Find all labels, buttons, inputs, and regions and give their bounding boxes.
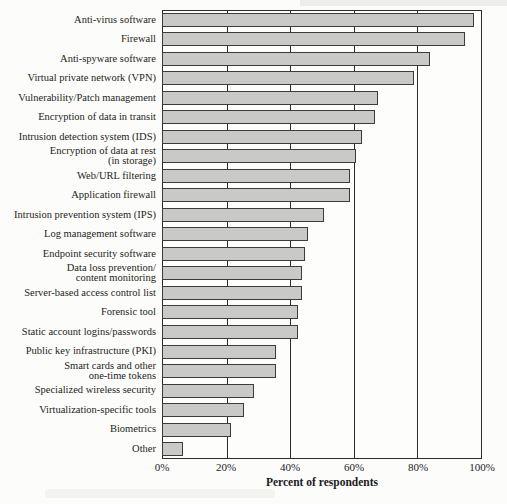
bar-row: Intrusion detection system (IDS): [0, 127, 482, 147]
bar-rows: Anti-virus softwareFirewallAnti-spyware …: [0, 10, 482, 459]
bar-row: Static account logins/passwords: [0, 322, 482, 342]
bar-row: Forensic tool: [0, 303, 482, 323]
bar-track: [162, 361, 482, 381]
bar: [162, 13, 474, 27]
bar: [162, 345, 276, 359]
bar: [162, 32, 465, 46]
category-label: Intrusion prevention system (IPS): [0, 210, 162, 221]
category-label: Server-based access control list: [0, 288, 162, 299]
bar-track: [162, 303, 482, 323]
category-label: Other: [0, 444, 162, 455]
category-label: Virtualization-specific tools: [0, 405, 162, 416]
bar-track: [162, 88, 482, 108]
bar: [162, 149, 356, 163]
bar-track: [162, 322, 482, 342]
bar-row: Smart cards and other one-time tokens: [0, 361, 482, 381]
bar-track: [162, 30, 482, 50]
bar: [162, 247, 305, 261]
bar: [162, 325, 298, 339]
bar: [162, 286, 302, 300]
bar-row: Intrusion prevention system (IPS): [0, 205, 482, 225]
category-label: Vulnerability/Patch management: [0, 93, 162, 104]
bar: [162, 188, 350, 202]
bar-row: Public key infrastructure (PKI): [0, 342, 482, 362]
category-label: Web/URL filtering: [0, 171, 162, 182]
bar-track: [162, 439, 482, 459]
bar: [162, 227, 308, 241]
bar: [162, 130, 362, 144]
bar: [162, 208, 324, 222]
bar-track: [162, 400, 482, 420]
bar-track: [162, 127, 482, 147]
bar-track: [162, 108, 482, 128]
bar-row: Data loss prevention/ content monitoring: [0, 264, 482, 284]
bar-row: Virtualization-specific tools: [0, 400, 482, 420]
x-tick-label: 40%: [280, 461, 300, 474]
bar-row: Application firewall: [0, 186, 482, 206]
bar: [162, 52, 430, 66]
category-label: Smart cards and other one-time tokens: [0, 361, 162, 382]
category-label: Specialized wireless security: [0, 385, 162, 396]
bar-row: Anti-virus software: [0, 10, 482, 30]
bar-row: Firewall: [0, 30, 482, 50]
bar-row: Biometrics: [0, 420, 482, 440]
bar: [162, 442, 183, 456]
bar-row: Log management software: [0, 225, 482, 245]
category-label: Encryption of data in transit: [0, 112, 162, 123]
category-label: Anti-virus software: [0, 15, 162, 26]
bar-track: [162, 147, 482, 167]
x-tick-label: 0%: [155, 461, 170, 474]
category-label: Intrusion detection system (IDS): [0, 132, 162, 143]
x-tick-label: 60%: [344, 461, 364, 474]
bar-track: [162, 10, 482, 30]
category-label: Application firewall: [0, 190, 162, 201]
bar: [162, 305, 298, 319]
bar-row: Server-based access control list: [0, 283, 482, 303]
category-label: Virtual private network (VPN): [0, 73, 162, 84]
bar-track: [162, 244, 482, 264]
bar: [162, 71, 414, 85]
bar: [162, 364, 276, 378]
bar-track: [162, 342, 482, 362]
bar-row: Virtual private network (VPN): [0, 69, 482, 89]
bar-row: Other: [0, 439, 482, 459]
bar-row: Vulnerability/Patch management: [0, 88, 482, 108]
bar-track: [162, 283, 482, 303]
bar-row: Web/URL filtering: [0, 166, 482, 186]
category-label: Firewall: [0, 34, 162, 45]
category-label: Log management software: [0, 229, 162, 240]
bar-track: [162, 225, 482, 245]
bar: [162, 423, 231, 437]
bar-track: [162, 49, 482, 69]
bar-track: [162, 186, 482, 206]
bar-row: Encryption of data at rest (in storage): [0, 147, 482, 167]
bar: [162, 169, 350, 183]
category-label: Forensic tool: [0, 307, 162, 318]
bar: [162, 110, 375, 124]
bar-track: [162, 166, 482, 186]
x-tick-label: 80%: [408, 461, 428, 474]
bar-track: [162, 381, 482, 401]
scan-artifact-top: [300, 0, 507, 6]
bar-row: Anti-spyware software: [0, 49, 482, 69]
x-tick-label: 20%: [216, 461, 236, 474]
bar: [162, 384, 254, 398]
bar-track: [162, 420, 482, 440]
category-label: Encryption of data at rest (in storage): [0, 146, 162, 167]
bar: [162, 266, 302, 280]
category-label: Data loss prevention/ content monitoring: [0, 263, 162, 284]
category-label: Endpoint security software: [0, 249, 162, 260]
bar-track: [162, 264, 482, 284]
bar: [162, 403, 244, 417]
category-label: Anti-spyware software: [0, 54, 162, 65]
security-technologies-bar-chart: Anti-virus softwareFirewallAnti-spyware …: [0, 0, 507, 504]
bar-row: Encryption of data in transit: [0, 108, 482, 128]
bar: [162, 91, 378, 105]
category-label: Biometrics: [0, 424, 162, 435]
x-axis-ticks: 0%20%40%60%80%100%: [0, 461, 507, 475]
bar-track: [162, 69, 482, 89]
x-axis-title: Percent of respondents: [162, 476, 482, 488]
bar-track: [162, 205, 482, 225]
category-label: Static account logins/passwords: [0, 327, 162, 338]
category-label: Public key infrastructure (PKI): [0, 346, 162, 357]
